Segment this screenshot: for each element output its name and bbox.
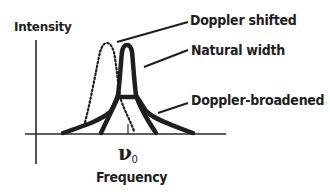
leader-doppler-broadened <box>158 103 188 113</box>
y-axis-label: Intensity <box>14 20 72 33</box>
leader-natural-width <box>144 50 188 67</box>
natural-width-label: Natural width <box>191 43 285 57</box>
x-axis-label: Frequency <box>96 170 167 184</box>
nu0-label: ν0 <box>118 143 138 165</box>
line-shape-diagram: Intensity Doppler shifted Natural width … <box>0 0 330 194</box>
nu-symbol: ν <box>118 141 132 165</box>
doppler-shifted-label: Doppler shifted <box>190 13 296 27</box>
leader-doppler-shifted <box>117 22 188 42</box>
doppler-broadened-label: Doppler-broadened <box>191 93 324 107</box>
nu-subscript: 0 <box>132 154 138 165</box>
